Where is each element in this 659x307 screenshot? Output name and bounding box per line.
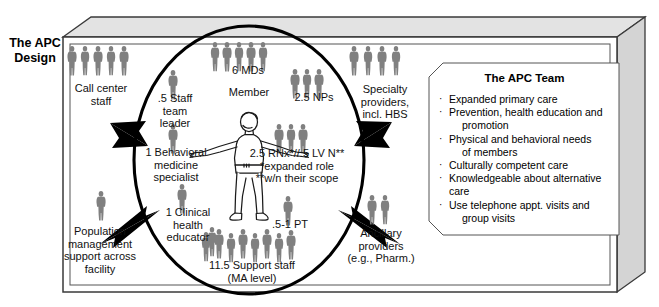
apc-team-bullet-line1: Knowledgeable about alternative care	[449, 172, 601, 197]
apc-team-bullet-line2: group visits	[449, 212, 611, 225]
bullet-icon: ·	[439, 158, 442, 171]
label-clinical-health-educator: 1 Clinical health educator	[152, 206, 224, 244]
label-staff-team-leader: .5 Staff team leader	[146, 92, 204, 130]
label-ancillary-providers: Ancillary providers (e.g., Pharm.)	[329, 227, 433, 265]
label-support-staff: 11.5 Support staff (MA level)	[194, 259, 310, 284]
apc-team-bullet-line2: of members	[449, 146, 611, 159]
apc-team-bullet-item: · Physical and behavioral needs of membe…	[438, 133, 611, 159]
label-physical-therapist: .5-1 PT	[258, 218, 322, 231]
label-population-management: Population management support across fac…	[47, 225, 153, 275]
bullet-icon: ·	[439, 105, 442, 118]
apc-team-bullet-item: · Prevention, health education and promo…	[438, 106, 611, 132]
apc-team-bullet-line1: Culturally competent care	[449, 159, 568, 171]
bullet-icon: ·	[439, 92, 442, 105]
label-specialty-providers: Specialty providers, incl. HBS	[339, 83, 431, 121]
label-member: Member	[216, 86, 282, 99]
label-nps: 2.5 NPs	[283, 91, 345, 104]
apc-team-panel: The APC Team · Expanded primary care · P…	[429, 63, 619, 235]
apc-team-bullet-line1: Prevention, health education and	[449, 106, 603, 118]
apc-team-bullet-item: · Expanded primary care	[438, 93, 611, 106]
apc-team-panel-title: The APC Team	[438, 72, 611, 84]
bullet-icon: ·	[439, 132, 442, 145]
label-mds: 6 MDs	[216, 64, 280, 77]
label-behavioral-medicine-specialist: 1 Behavioral medicine specialist	[138, 146, 214, 184]
bullet-icon: ·	[439, 171, 442, 184]
label-rn-lvn: 2.5 RNx*//.5 LV N** *expanded role **w/n…	[239, 147, 355, 185]
apc-team-bullet-line1: Use telephone appt. visits and	[449, 199, 590, 211]
box-right-face	[617, 17, 645, 292]
page-title: The APC Design	[8, 36, 62, 66]
apc-team-bullet-line1: Expanded primary care	[449, 93, 558, 105]
apc-team-bullet-line1: Physical and behavioral needs	[449, 133, 591, 145]
apc-team-bullet-item: · Knowledgeable about alternative care	[438, 172, 611, 198]
apc-design-diagram: The APC Design Call center staff Special…	[0, 0, 659, 307]
box-top-face	[63, 17, 645, 37]
apc-team-bullet-list: · Expanded primary care · Prevention, he…	[438, 93, 611, 225]
apc-team-bullet-line2: promotion	[449, 119, 611, 132]
bullet-icon: ·	[439, 198, 442, 211]
label-call-center-staff: Call center staff	[62, 82, 140, 107]
apc-team-bullet-item: · Use telephone appt. visits and group v…	[438, 199, 611, 225]
apc-team-bullet-item: · Culturally competent care	[438, 159, 611, 172]
